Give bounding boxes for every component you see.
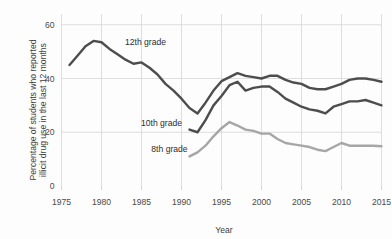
gridlines bbox=[62, 14, 382, 186]
series-label-10th-grade: 10th grade bbox=[141, 118, 182, 128]
series-line-10th-grade bbox=[190, 82, 382, 133]
line-chart: 0204060 19751980198519901995200020052010… bbox=[0, 0, 392, 239]
x-tick-label: 1985 bbox=[132, 197, 151, 207]
x-tick-label: 2010 bbox=[332, 197, 351, 207]
series-label-12th-grade: 12th grade bbox=[125, 37, 166, 47]
y-tick-label: 60 bbox=[45, 20, 55, 30]
x-axis-title: Year bbox=[215, 225, 233, 235]
y-axis-title-line-1: Percentage of students who reported bbox=[28, 39, 38, 180]
series-line-12th-grade bbox=[70, 41, 382, 114]
x-tick-label: 1980 bbox=[92, 197, 111, 207]
series-line-8th-grade bbox=[190, 122, 382, 156]
data-series-lines bbox=[70, 41, 382, 157]
series-label-8th-grade: 8th grade bbox=[151, 144, 188, 154]
x-axis-tick-labels: 197519801985199019952000200520102015 bbox=[52, 197, 391, 207]
x-tick-label: 2000 bbox=[252, 197, 271, 207]
x-tick-label: 1995 bbox=[212, 197, 231, 207]
y-tick-label: 0 bbox=[50, 181, 55, 191]
y-axis-title-line-2: illicit drug use in the last 12 months bbox=[38, 43, 48, 177]
x-tick-label: 2015 bbox=[372, 197, 391, 207]
x-tick-label: 1990 bbox=[172, 197, 191, 207]
chart-container: 0204060 19751980198519901995200020052010… bbox=[0, 0, 392, 239]
x-tick-label: 2005 bbox=[292, 197, 311, 207]
x-tick-label: 1975 bbox=[52, 197, 71, 207]
x-axis-tick-marks bbox=[62, 186, 382, 190]
